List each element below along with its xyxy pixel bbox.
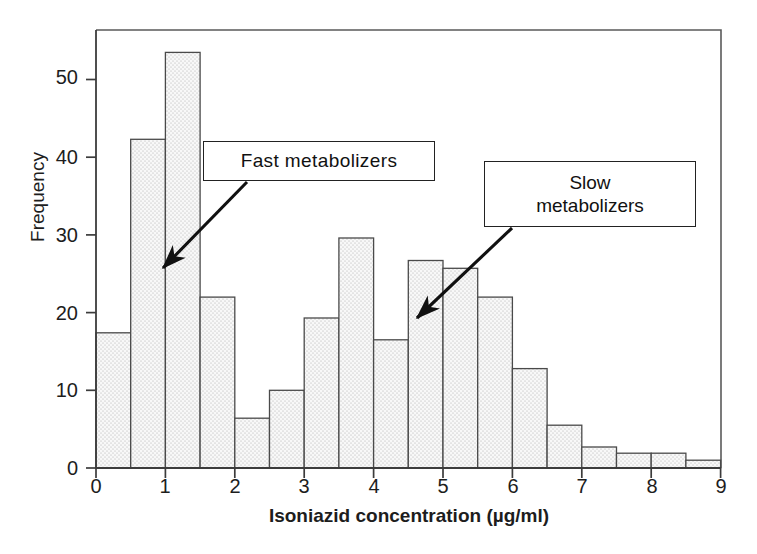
bar xyxy=(478,297,513,468)
annotation-slow-line-1: Slow xyxy=(569,172,610,193)
bar xyxy=(339,238,374,468)
bar xyxy=(512,369,547,468)
bar xyxy=(686,460,721,468)
x-axis-ticks xyxy=(96,468,721,478)
bar xyxy=(270,390,305,468)
plot-area xyxy=(0,0,757,554)
annotation-slow-metabolizers: Slow metabolizers xyxy=(484,161,696,227)
histogram-figure: Frequency Isoniazid concentration (µg/ml… xyxy=(0,0,757,554)
bar xyxy=(582,447,617,468)
bar xyxy=(235,418,270,468)
bar xyxy=(131,139,166,468)
bar xyxy=(651,453,686,468)
bar xyxy=(547,425,582,468)
bar xyxy=(304,318,339,468)
bar xyxy=(443,268,478,468)
annotation-slow-metabolizers-label: Slow metabolizers xyxy=(536,171,644,217)
bar xyxy=(200,297,235,468)
histogram-bars xyxy=(96,52,721,468)
annotation-fast-metabolizers: Fast metabolizers xyxy=(203,141,435,181)
bar xyxy=(96,333,131,468)
bar xyxy=(408,261,443,469)
annotation-fast-metabolizers-label: Fast metabolizers xyxy=(241,149,398,172)
annotation-slow-line-2: metabolizers xyxy=(536,195,644,216)
y-axis-ticks xyxy=(86,80,96,469)
bar xyxy=(374,340,409,468)
bar xyxy=(617,453,652,468)
